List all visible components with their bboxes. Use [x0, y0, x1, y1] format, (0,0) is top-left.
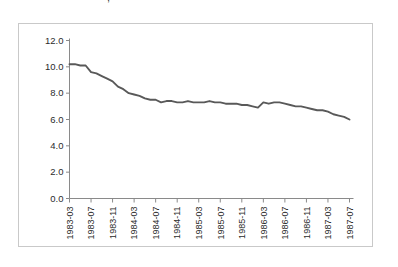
x-tick-label: 1985-07 [216, 207, 226, 240]
x-tick-label: 1986-07 [280, 207, 290, 240]
y-axis: 0.02.04.06.08.010.012.0 [45, 35, 70, 204]
x-tick-label: 1983-11 [108, 207, 118, 239]
series-group [70, 64, 350, 119]
x-tick-label: 1983-03 [65, 207, 75, 240]
x-tick-label: 1984-11 [172, 207, 182, 239]
x-tick-label: 1987-03 [323, 207, 333, 240]
y-tick-label: 6.0 [50, 114, 63, 125]
x-tick-label: 1985-03 [194, 207, 204, 240]
y-tick-label: 0.0 [50, 193, 63, 204]
x-axis: 1983-031983-071983-111984-031984-071984-… [65, 199, 355, 240]
x-tick-label: 1987-07 [345, 207, 355, 240]
y-tick-label: 10.0 [45, 61, 64, 72]
y-tick-label: 12.0 [45, 35, 64, 46]
series-line-rate [70, 64, 350, 119]
x-tick-label: 1983-07 [86, 207, 96, 240]
x-tick-label: 1986-03 [259, 207, 269, 240]
y-tick-label: 2.0 [50, 166, 63, 177]
x-tick-label: 1986-11 [302, 207, 312, 239]
figure-container: ⚬⚬⚬ ⚬⚬⚬ ⚬⚬⚬⚬, ⚬⚬⚬⚬⚬ ⚬⚬⚬⚬⚬ ⚬ ⚬⚬⚬ 0.02.04.… [0, 0, 398, 267]
line-chart: 0.02.04.06.08.010.012.0 1983-031983-0719… [0, 0, 398, 267]
y-tick-label: 8.0 [50, 87, 63, 98]
x-tick-label: 1984-07 [151, 207, 161, 240]
x-tick-label: 1985-11 [237, 207, 247, 239]
x-tick-label: 1984-03 [129, 207, 139, 240]
y-tick-label: 4.0 [50, 140, 63, 151]
